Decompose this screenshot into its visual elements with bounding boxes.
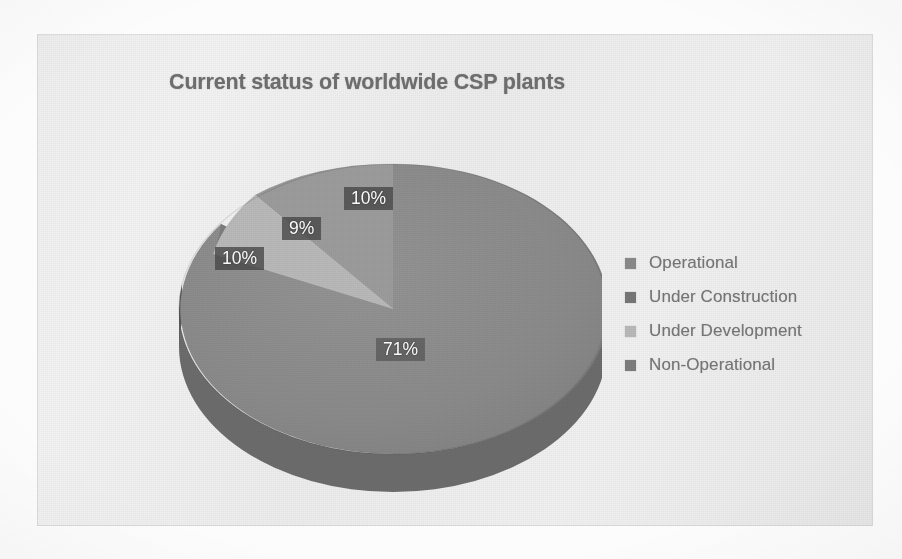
legend-item-under-development[interactable]: Under Development	[625, 314, 873, 348]
data-label-under-construction: 10%	[344, 187, 393, 210]
legend-label-non-operational: Non-Operational	[649, 355, 775, 375]
data-label-non-operational: 10%	[215, 247, 264, 270]
chart-title: Current status of worldwide CSP plants	[37, 70, 697, 95]
legend-swatch-icon-non-operational	[625, 360, 636, 371]
legend-item-non-operational[interactable]: Non-Operational	[625, 348, 873, 382]
legend-swatch-icon-under-development	[625, 326, 636, 337]
pie-chart-svg	[142, 94, 602, 494]
chart-legend: Operational Under Construction Under Dev…	[625, 246, 873, 382]
legend-swatch-icon-under-construction	[625, 292, 636, 303]
pie-chart: 10% 9% 10% 71%	[142, 94, 602, 494]
legend-item-operational[interactable]: Operational	[625, 246, 873, 280]
data-label-under-development: 9%	[282, 217, 321, 240]
chart-figure: Current status of worldwide CSP plants	[37, 34, 873, 526]
data-label-operational: 71%	[376, 338, 425, 361]
legend-label-under-construction: Under Construction	[649, 287, 797, 307]
figure-page: Current status of worldwide CSP plants	[0, 0, 902, 559]
legend-swatch-icon-operational	[625, 258, 636, 269]
legend-label-under-development: Under Development	[649, 321, 802, 341]
legend-label-operational: Operational	[649, 253, 738, 273]
legend-item-under-construction[interactable]: Under Construction	[625, 280, 873, 314]
